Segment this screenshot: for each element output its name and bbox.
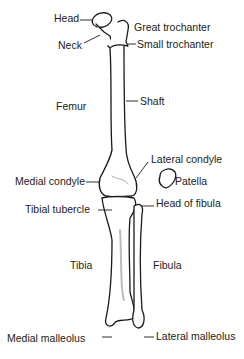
patella-bone [159,169,176,188]
fibula-bone [133,204,144,328]
label-neck: Neck [58,39,82,51]
label-small-trochanter: Small trochanter [137,38,213,50]
label-patella: Patella [175,175,207,187]
label-fibula: Fibula [153,259,182,271]
label-medial-condyle: Medial condyle [15,175,85,187]
label-head: Head [54,12,79,24]
label-tibial-tubercle: Tibial tubercle [25,203,90,215]
label-shaft: Shaft [140,95,165,107]
label-femur: Femur [56,100,86,112]
label-lateral-condyle: Lateral condyle [151,153,222,165]
femur-bone [91,11,137,197]
tibia-bone [102,197,136,327]
label-lateral-malleolus: Lateral malleolus [156,330,235,342]
label-great-trochanter: Great trochanter [134,21,210,33]
label-medial-malleolus: Medial malleolus [7,332,85,344]
label-tibia: Tibia [70,259,92,271]
label-head-of-fibula: Head of fibula [156,197,221,209]
